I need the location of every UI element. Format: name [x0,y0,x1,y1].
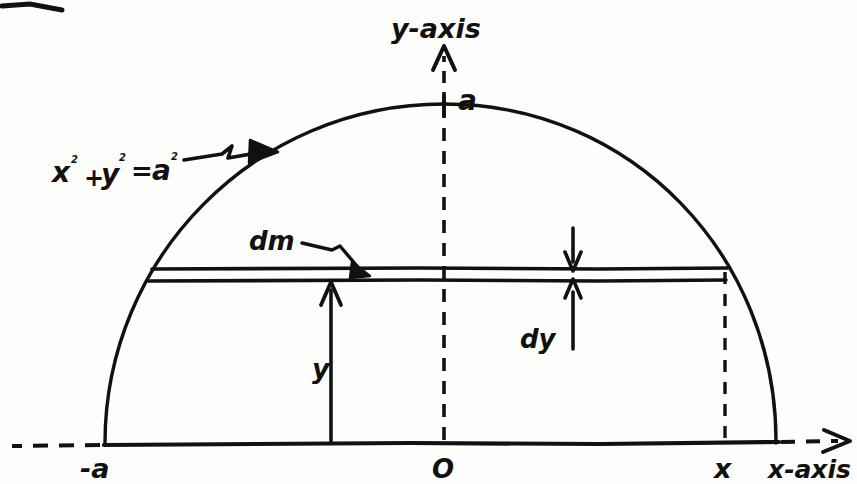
x-axis-line [104,442,779,445]
strip-bottom-edge [148,280,726,281]
x-axis-dashed-left [12,445,100,446]
equation-exponent-1: 2 [71,154,78,165]
equation-exponent-3: 2 [171,151,178,162]
equation-arrowhead-icon [249,140,278,163]
strip-top-edge [152,268,728,269]
strip-thickness-label: dy [520,324,557,354]
equation-equals: = [131,156,153,186]
origin-label: O [432,454,454,484]
diagram-canvas: y-axis x-axis O a -a x dm dy y x 2 + y 2… [0,0,857,484]
stray-ink-mark [2,4,62,10]
equation-y: y [101,158,121,191]
left-intercept-label: -a [80,453,109,484]
mass-element-label: dm [249,226,295,256]
y-axis-label: y-axis [391,13,481,44]
dm-arrowhead-icon [350,262,370,278]
x-axis-dashed-right [781,441,838,442]
equation-x: x [50,156,71,189]
x-axis-label: x-axis [766,455,851,484]
equation-a: a [152,154,171,187]
circle-equation-label: x 2 + y 2 = a 2 [50,151,178,192]
equation-exponent-2: 2 [119,152,126,163]
height-label: y [312,353,331,384]
radius-top-label: a [458,84,477,117]
semicircle-diagram-svg: y-axis x-axis O a -a x dm dy y x 2 + y 2… [0,0,857,484]
right-intercept-label: x [712,453,733,484]
